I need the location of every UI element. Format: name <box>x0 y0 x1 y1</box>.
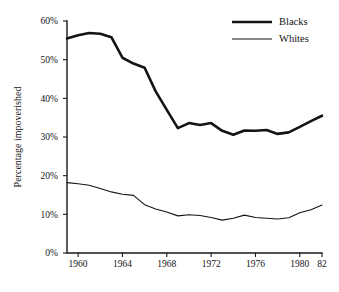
x-tick-label: 82 <box>317 259 327 269</box>
line-chart: Percentage impoverished 0%10%20%30%40%50… <box>0 0 339 292</box>
x-tick-label: 1972 <box>202 259 221 269</box>
y-tick-label: 40% <box>41 94 59 104</box>
x-tick-label: 1968 <box>157 259 176 269</box>
y-tick-label: 30% <box>41 132 59 142</box>
y-tick-label: 60% <box>41 16 59 26</box>
y-tick-label: 20% <box>41 171 59 181</box>
x-tick-label: 1960 <box>69 259 88 269</box>
y-axis-title: Percentage impoverished <box>12 87 23 188</box>
y-tick-label: 10% <box>41 210 59 220</box>
legend-label-blacks: Blacks <box>279 16 308 27</box>
x-tick-label: 1964 <box>113 259 132 269</box>
legend-label-whites: Whites <box>279 33 309 44</box>
x-axis-tick-labels: 19601964196819721976198082 <box>69 259 327 269</box>
legend: Blacks Whites <box>232 16 309 44</box>
series-line-blacks <box>67 33 322 135</box>
series-line-whites <box>67 183 322 221</box>
chart-figure: Percentage impoverished 0%10%20%30%40%50… <box>0 0 339 292</box>
x-tick-label: 1976 <box>246 259 265 269</box>
y-axis-tick-labels: 0%10%20%30%40%50%60% <box>41 16 59 258</box>
x-tick-label: 1980 <box>290 259 309 269</box>
y-tick-label: 50% <box>41 55 59 65</box>
y-tick-label: 0% <box>45 248 58 258</box>
